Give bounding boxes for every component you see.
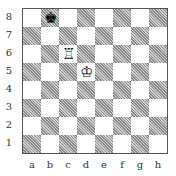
square-c3 <box>59 99 77 117</box>
square-e8 <box>95 9 113 27</box>
square-e6 <box>95 45 113 63</box>
chess-board: ♚♖♔ <box>22 8 168 154</box>
square-b6 <box>41 45 59 63</box>
rank-label: 8 <box>4 11 14 22</box>
square-c8 <box>59 9 77 27</box>
square-e7 <box>95 27 113 45</box>
square-a8 <box>23 9 41 27</box>
file-label: b <box>41 159 59 170</box>
square-e4 <box>95 81 113 99</box>
black-king-icon: ♚ <box>44 9 57 27</box>
square-d4 <box>77 81 95 99</box>
square-e1 <box>95 135 113 153</box>
rank-label: 1 <box>4 137 14 148</box>
square-c1 <box>59 135 77 153</box>
square-h1 <box>149 135 167 153</box>
rank-label: 3 <box>4 101 14 112</box>
file-label: g <box>131 159 149 170</box>
square-b2 <box>41 117 59 135</box>
square-a6 <box>23 45 41 63</box>
file-label: e <box>95 159 113 170</box>
white-king-icon: ♔ <box>80 63 93 81</box>
square-a2 <box>23 117 41 135</box>
square-d1 <box>77 135 95 153</box>
white-rook-icon: ♖ <box>62 45 75 63</box>
square-h3 <box>149 99 167 117</box>
square-d8 <box>77 9 95 27</box>
square-c7 <box>59 27 77 45</box>
square-b1 <box>41 135 59 153</box>
square-d3 <box>77 99 95 117</box>
square-a3 <box>23 99 41 117</box>
square-f2 <box>113 117 131 135</box>
rank-label: 4 <box>4 83 14 94</box>
square-g3 <box>131 99 149 117</box>
square-g2 <box>131 117 149 135</box>
square-h6 <box>149 45 167 63</box>
square-g6 <box>131 45 149 63</box>
square-b5 <box>41 63 59 81</box>
file-label: c <box>59 159 77 170</box>
square-h4 <box>149 81 167 99</box>
square-d5: ♔ <box>77 63 95 81</box>
square-a1 <box>23 135 41 153</box>
rank-label: 7 <box>4 29 14 40</box>
square-h8 <box>149 9 167 27</box>
square-f8 <box>113 9 131 27</box>
square-f1 <box>113 135 131 153</box>
square-c2 <box>59 117 77 135</box>
square-b3 <box>41 99 59 117</box>
square-g4 <box>131 81 149 99</box>
square-a5 <box>23 63 41 81</box>
square-h5 <box>149 63 167 81</box>
square-a7 <box>23 27 41 45</box>
square-g5 <box>131 63 149 81</box>
file-label: h <box>149 159 167 170</box>
square-g1 <box>131 135 149 153</box>
square-b8: ♚ <box>41 9 59 27</box>
square-e5 <box>95 63 113 81</box>
square-c4 <box>59 81 77 99</box>
file-label: d <box>77 159 95 170</box>
square-c5 <box>59 63 77 81</box>
square-d2 <box>77 117 95 135</box>
rank-label: 2 <box>4 119 14 130</box>
square-a4 <box>23 81 41 99</box>
square-f3 <box>113 99 131 117</box>
rank-label: 5 <box>4 65 14 76</box>
square-e2 <box>95 117 113 135</box>
square-f6 <box>113 45 131 63</box>
square-d6 <box>77 45 95 63</box>
square-f7 <box>113 27 131 45</box>
square-g8 <box>131 9 149 27</box>
square-b4 <box>41 81 59 99</box>
square-c6: ♖ <box>59 45 77 63</box>
file-label: a <box>23 159 41 170</box>
rank-label: 6 <box>4 47 14 58</box>
square-h7 <box>149 27 167 45</box>
square-e3 <box>95 99 113 117</box>
square-f5 <box>113 63 131 81</box>
square-b7 <box>41 27 59 45</box>
file-label: f <box>113 159 131 170</box>
square-f4 <box>113 81 131 99</box>
square-h2 <box>149 117 167 135</box>
square-d7 <box>77 27 95 45</box>
square-g7 <box>131 27 149 45</box>
